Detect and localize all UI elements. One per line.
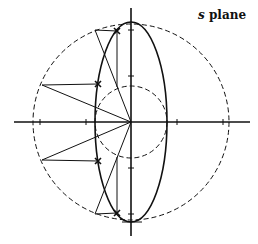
construction-lines (42, 30, 142, 222)
s-plane-diagram (0, 0, 258, 244)
